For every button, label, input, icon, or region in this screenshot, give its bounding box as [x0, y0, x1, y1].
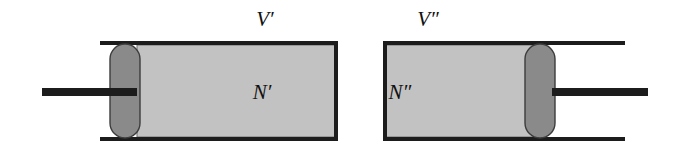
left-amount-label: N′: [252, 80, 272, 104]
left-cylinder-top-wall: [100, 41, 338, 45]
figure-canvas: V′ N′ V″ N″: [0, 0, 686, 163]
right-volume-label: V″: [417, 7, 439, 31]
left-piston-cylinder: V′ N′: [42, 7, 338, 141]
right-piston-cylinder: V″ N″: [383, 7, 648, 141]
left-piston-rod[interactable]: [42, 88, 137, 96]
left-cylinder-closed-end: [334, 41, 338, 141]
left-gas-region: [137, 45, 335, 137]
right-amount-label: N″: [388, 80, 412, 104]
piston-cylinder-diagram: V′ N′ V″ N″: [0, 0, 686, 163]
right-piston-rod[interactable]: [552, 88, 648, 96]
right-cylinder-closed-end: [383, 41, 387, 141]
right-cylinder-bottom-wall: [383, 137, 625, 141]
left-cylinder-bottom-wall: [100, 137, 338, 141]
left-volume-label: V′: [256, 7, 274, 31]
right-piston[interactable]: [525, 44, 555, 138]
right-cylinder-top-wall: [383, 41, 625, 45]
